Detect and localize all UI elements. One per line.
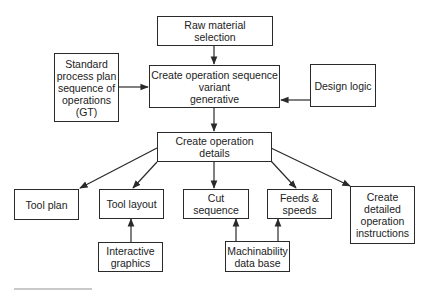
node-label: process plan: [57, 70, 117, 82]
node-label: Cut sequence: [184, 192, 248, 216]
node-label: Raw material: [184, 19, 245, 31]
node-label: instructions: [356, 227, 409, 239]
node-label: (GT): [57, 106, 117, 118]
node-raw-material-selection: Raw material selection: [157, 16, 273, 46]
node-label: variant: [151, 81, 278, 93]
node-label: Feeds &: [280, 192, 319, 204]
node-create-detailed-operation-instructions: Create detailed operation instructions: [350, 186, 415, 244]
node-label: Interactive: [106, 245, 154, 257]
node-design-logic: Design logic: [310, 64, 376, 107]
edge-details-to-feeds: [271, 161, 296, 188]
node-label: Standard: [57, 58, 117, 70]
node-label: Design logic: [314, 80, 371, 92]
node-label: sequence of: [57, 82, 117, 94]
edge-details-to-toolplan: [80, 148, 157, 188]
node-interactive-graphics: Interactive graphics: [98, 242, 163, 272]
node-label: generative: [151, 93, 278, 105]
node-label: Tool layout: [106, 198, 156, 210]
process-planning-flowchart: Raw material selection Standard process …: [0, 0, 435, 297]
node-label: Machinability: [227, 245, 288, 257]
node-standard-process-plan: Standard process plan sequence of operat…: [54, 53, 119, 122]
node-create-operation-details: Create operation details: [157, 132, 272, 162]
node-label: details: [175, 147, 253, 159]
edge-details-to-toollayout: [133, 162, 157, 188]
node-label: selection: [184, 31, 245, 43]
footer-rule: [14, 288, 92, 290]
node-label: Create: [356, 191, 409, 203]
node-label: operations: [57, 94, 117, 106]
node-label: Tool plan: [25, 199, 67, 211]
edge-details-to-instructions: [271, 148, 350, 186]
node-label: detailed: [356, 203, 409, 215]
node-label: graphics: [106, 257, 154, 269]
node-machinability-data-base: Machinability data base: [225, 241, 290, 272]
node-label: data base: [227, 257, 288, 269]
node-label: Create operation: [175, 135, 253, 147]
node-feeds-speeds: Feeds & speeds: [267, 189, 332, 219]
node-create-operation-sequence: Create operation sequence variant genera…: [149, 65, 280, 108]
node-label: Create operation sequence: [151, 69, 278, 81]
node-tool-plan: Tool plan: [14, 189, 79, 220]
node-tool-layout: Tool layout: [99, 189, 164, 219]
node-cut-sequence: Cut sequence: [183, 189, 249, 219]
node-label: operation: [356, 215, 409, 227]
node-label: speeds: [280, 204, 319, 216]
